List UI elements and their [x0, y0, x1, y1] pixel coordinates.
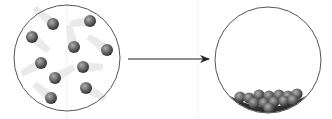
condensed-particles: [230, 88, 306, 115]
gas-particle: [45, 92, 57, 104]
gas-particle: [101, 44, 113, 56]
gas-particle: [47, 18, 59, 30]
liquid-particle: [248, 97, 259, 108]
liquid-particle: [263, 102, 274, 113]
gas-particle: [49, 72, 61, 84]
gas-particle: [84, 15, 96, 27]
gas-particle: [80, 82, 92, 94]
gas-particle: [35, 57, 47, 69]
gas-particle: [26, 31, 38, 43]
motion-trails: [19, 4, 110, 103]
gas-particle: [68, 41, 80, 53]
gas-particle: [77, 61, 89, 73]
gas-condensation-diagram: [0, 0, 332, 119]
